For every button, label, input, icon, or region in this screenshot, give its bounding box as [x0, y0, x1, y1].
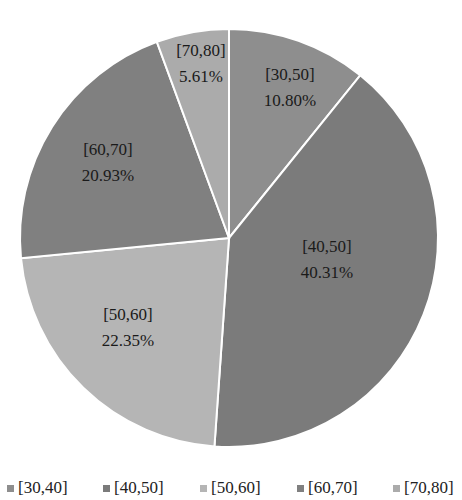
slice-label-percent: 22.35% [102, 331, 154, 350]
slice-label-name: [60,70] [83, 140, 133, 159]
legend-marker-icon [393, 485, 400, 492]
legend-label: [50,60] [211, 478, 261, 498]
slice-label-percent: 10.80% [264, 91, 316, 110]
legend-label: [60,70] [308, 478, 358, 498]
legend-item-30-40: [30,40] [7, 478, 68, 498]
legend-item-70-80: [70,80] [393, 478, 454, 498]
legend-label: [70,80] [404, 478, 454, 498]
legend-item-40-50: [40,50] [103, 478, 164, 498]
legend-marker-icon [103, 485, 110, 492]
legend-marker-icon [200, 485, 207, 492]
legend-marker-icon [297, 485, 304, 492]
slice-label-percent: 20.93% [82, 166, 134, 185]
slice-label-name: [70,80] [176, 41, 226, 60]
legend-marker-icon [7, 485, 14, 492]
legend-item-50-60: [50,60] [200, 478, 261, 498]
slice-label-name: [30,50] [265, 65, 315, 84]
legend-label: [30,40] [18, 478, 68, 498]
legend-item-60-70: [60,70] [297, 478, 358, 498]
slice-label-percent: 40.31% [301, 263, 353, 282]
chart-legend: [30,40] [40,50] [50,60] [60,70] [70,80] [0, 478, 462, 500]
pie-slices [20, 29, 438, 447]
legend-label: [40,50] [114, 478, 164, 498]
slice-label-name: [50,60] [103, 305, 153, 324]
slice-label-percent: 5.61% [179, 67, 223, 86]
slice-label-name: [40,50] [302, 237, 352, 256]
